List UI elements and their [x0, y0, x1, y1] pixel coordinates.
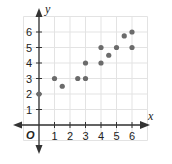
- data-point: [36, 91, 41, 96]
- y-tick-label: 5: [26, 42, 32, 54]
- data-point: [106, 53, 111, 58]
- origin-label: O: [26, 129, 35, 141]
- data-point: [129, 45, 134, 50]
- y-axis-arrow-up-icon: [36, 8, 43, 17]
- data-point: [129, 29, 134, 34]
- data-point: [60, 84, 65, 89]
- data-point: [83, 60, 88, 65]
- scatter-chart: 123456123456 x y O: [0, 0, 172, 164]
- y-tick-label: 1: [26, 104, 32, 116]
- x-tick-label: 5: [113, 130, 119, 142]
- data-point: [83, 76, 88, 81]
- y-tick-label: 2: [26, 88, 32, 100]
- labels: x y O: [26, 2, 154, 141]
- y-axis-label: y: [44, 2, 51, 16]
- x-tick-label: 3: [82, 130, 88, 142]
- x-tick-label: 1: [51, 130, 57, 142]
- x-axis-arrow-left-icon: [13, 122, 22, 129]
- data-point: [122, 33, 127, 38]
- x-tick-label: 4: [98, 130, 104, 142]
- data-point: [75, 76, 80, 81]
- data-point: [98, 60, 103, 65]
- x-tick-label: 2: [67, 130, 73, 142]
- data-point: [52, 76, 57, 81]
- y-tick-label: 6: [26, 26, 32, 38]
- x-tick-label: 6: [129, 130, 135, 142]
- x-axis-label: x: [147, 109, 154, 123]
- y-axis-arrow-down-icon: [36, 145, 43, 154]
- y-tick-label: 4: [26, 57, 32, 69]
- data-point: [98, 45, 103, 50]
- data-point: [114, 45, 119, 50]
- y-tick-label: 3: [26, 73, 32, 85]
